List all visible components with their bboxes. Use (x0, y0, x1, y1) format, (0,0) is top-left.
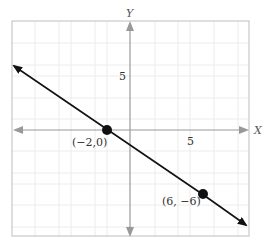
y-tick-label-5: 5 (119, 70, 126, 83)
point-neg2-0 (102, 125, 112, 135)
graphed-line (205, 196, 246, 225)
coordinate-plane: X Y 5 5 (−2,0) (6, −6) (0, 0, 268, 246)
x-axis-left-arrow-icon (13, 126, 23, 134)
y-axis-label: Y (126, 7, 135, 20)
x-axis-label: X (253, 124, 263, 137)
x-tick-label-5: 5 (187, 135, 194, 148)
x-axis-right-arrow-icon (239, 126, 249, 134)
y-axis-up-arrow-icon (126, 21, 134, 31)
point-label-neg2-0: (−2,0) (72, 136, 107, 149)
point-label-6-neg6: (6, −6) (162, 195, 201, 208)
